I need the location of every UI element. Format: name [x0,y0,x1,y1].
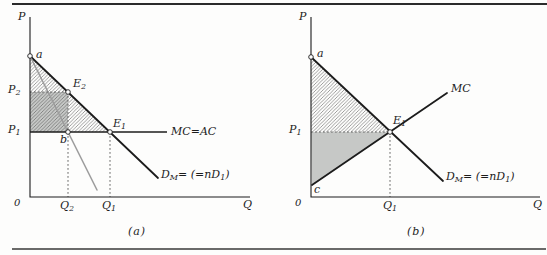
panel-b-point-a-label: a [317,48,324,59]
panel-b-point-a-marker [309,55,314,60]
panel-a-demand-curve-label: DM= (=nD1) [161,169,230,180]
panel-b-mc-curve-label: MC [451,83,471,94]
panel-a-point-b-label: b [60,134,67,145]
diagram-canvas [0,0,547,255]
panel-b-x-axis-label: Q [533,199,542,210]
panel-b-caption: (b) [407,226,426,237]
panel-b-point-e1-marker [388,130,393,135]
panel-b-point-c-label: c [314,184,320,195]
panel-a-point-e1-marker [108,130,113,135]
panel-a-caption: (a) [128,226,146,237]
panel-b-demand-curve-label: DM= (=nD1) [446,171,515,182]
panel-b-q1-label: Q1 [383,200,397,211]
panel-b-point-e1-label: E1 [393,115,406,126]
panel-b [309,17,540,197]
panel-a-point-a-marker [28,54,33,59]
panel-b-y-axis-label: P [299,11,306,22]
panel-a-origin-label: 0 [14,197,20,208]
panel-a-point-e2-marker [66,90,71,95]
panel-a-q1-label: Q1 [102,200,116,211]
panel-a-x-axis-label: Q [243,199,252,210]
panel-b-origin-label: 0 [295,197,301,208]
panel-a-mc-ac-curve-label: MC=AC [171,126,216,137]
figure: P a E2 P2 E1 P1 b MC=AC DM= (=nD1) 0 Q2 … [0,0,547,255]
panel-a-point-e1-label: E1 [113,118,126,129]
panel-a-p1-label: P1 [8,124,21,135]
panel-b-p1-label: P1 [289,124,302,135]
panel-a-y-axis-label: P [18,11,25,22]
panel-a-q2-label: Q2 [60,200,74,211]
panel-a-point-e2-label: E2 [73,78,86,89]
panel-a-point-a-label: a [36,49,43,60]
panel-a-p2-label: P2 [8,84,21,95]
